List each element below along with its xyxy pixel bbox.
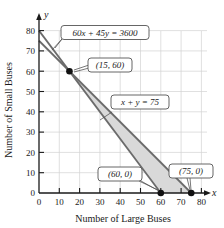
x-axis-title: Number of Large Buses: [75, 213, 171, 224]
graph-figure: 0 10 20 30 40 50 60 70 80 0 10 20 30 40 …: [0, 0, 224, 228]
y-tick-label-40: 40: [26, 107, 36, 117]
y-tick-label-0: 0: [31, 188, 36, 198]
x-tick-label-50: 50: [136, 197, 146, 207]
callout-equation-2: x + y = 75: [111, 95, 169, 109]
x-tick-label-60: 60: [156, 197, 166, 207]
callout-equation-1: 60x + 45y = 3600: [61, 26, 149, 40]
callout-point-75-0-label: (75, 0): [179, 166, 203, 176]
callout-point-15-60-label: (15, 60): [96, 60, 125, 70]
callout-point-60-0: (60, 0): [98, 167, 142, 181]
callout-point-75-0: (75, 0): [169, 164, 213, 178]
x-tick-label-0: 0: [37, 197, 42, 207]
callout-point-15-60: (15, 60): [88, 58, 132, 72]
x-tick-label-10: 10: [55, 197, 65, 207]
x-tick-label-20: 20: [75, 197, 85, 207]
y-tick-label-30: 30: [26, 127, 36, 137]
y-tick-label-50: 50: [26, 87, 36, 97]
y-tick-label-80: 80: [26, 26, 36, 36]
callout-equation-2-label: x + y = 75: [120, 97, 160, 107]
x-axis-symbol: x: [211, 187, 217, 198]
y-axis-symbol: y: [43, 9, 49, 20]
callout-equation-1-label: 60x + 45y = 3600: [72, 28, 138, 38]
y-axis-title: Number of Small Buses: [3, 62, 14, 158]
y-tick-label-10: 10: [26, 168, 36, 178]
point-marker-75-0: [188, 190, 195, 197]
y-tick-label-20: 20: [26, 148, 36, 158]
x-tick-label-40: 40: [116, 197, 126, 207]
y-tick-label-70: 70: [26, 46, 36, 56]
x-tick-label-70: 70: [177, 197, 187, 207]
y-tick-label-60: 60: [26, 67, 36, 77]
linear-programming-chart: 0 10 20 30 40 50 60 70 80 0 10 20 30 40 …: [0, 0, 224, 228]
point-marker-15-60: [66, 68, 73, 75]
callout-point-60-0-label: (60, 0): [108, 169, 132, 179]
x-tick-label-30: 30: [95, 197, 105, 207]
x-tick-label-80: 80: [197, 197, 207, 207]
